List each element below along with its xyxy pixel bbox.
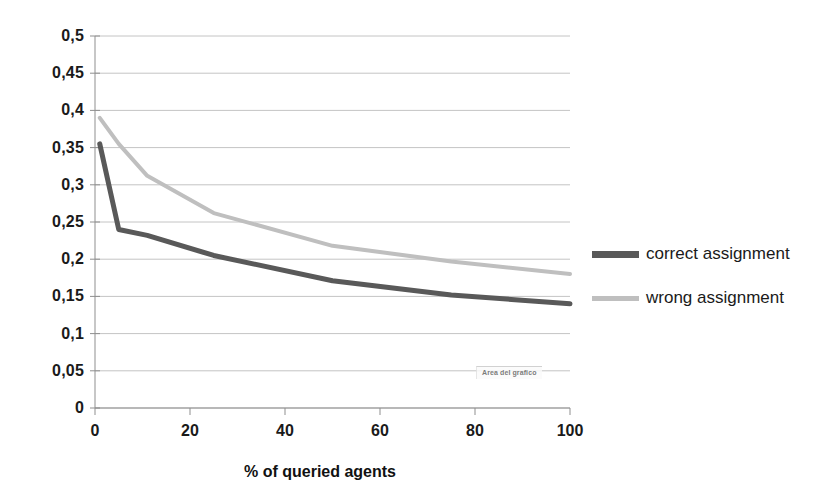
x-axis-tick-label: 100 — [540, 423, 600, 439]
x-axis-title: % of queried agents — [95, 463, 545, 481]
legend-label-wrong-assignment: wrong assignment — [646, 288, 784, 308]
chart-area-tooltip: Area del grafico — [476, 366, 542, 379]
legend-label-correct-assignment: correct assignment — [646, 244, 790, 264]
x-axis-tick-label: 0 — [65, 423, 125, 439]
x-axis-tick-label: 40 — [255, 423, 315, 439]
chart-container: 00,050,10,150,20,250,30,350,40,450,5 020… — [0, 0, 833, 502]
legend-item-wrong-assignment[interactable]: wrong assignment — [592, 276, 827, 320]
x-axis-tick-label: 20 — [160, 423, 220, 439]
x-axis-tick-label: 80 — [445, 423, 505, 439]
x-axis-tick-label: 60 — [350, 423, 410, 439]
legend-swatch-correct-assignment — [592, 251, 639, 258]
chart-legend: correct assignment wrong assignment — [592, 232, 827, 320]
legend-swatch-wrong-assignment — [592, 296, 639, 301]
legend-item-correct-assignment[interactable]: correct assignment — [592, 232, 827, 276]
